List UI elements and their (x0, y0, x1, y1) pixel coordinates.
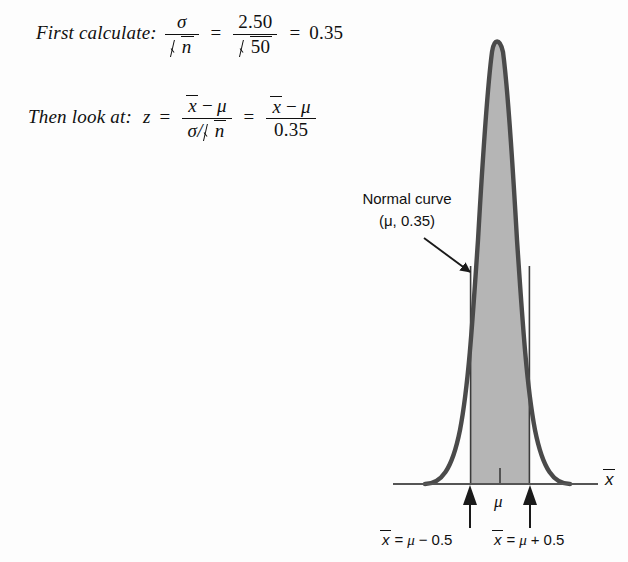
shaded-region (425, 42, 570, 485)
mu-symbol: μ (519, 532, 527, 548)
annotation-line-1: Normal curve (343, 188, 471, 210)
mu-symbol: μ (407, 532, 415, 548)
normal-curve-annotation: Normal curve (μ, 0.35) (343, 188, 471, 232)
mu-axis-label: μ (494, 492, 503, 512)
equals-sign: = (503, 531, 520, 548)
normal-curve-figure (0, 0, 628, 562)
x-bar: x (381, 531, 391, 548)
equals-sign: = (391, 531, 408, 548)
minus-sign: − (415, 531, 432, 548)
figure-page: First calculate: σ n = 2.50 50 = 0.35 Th… (0, 0, 628, 562)
annotation-line-2: (μ, 0.35) (343, 210, 471, 232)
right-bound-label: x=μ+0.5 (493, 531, 564, 549)
left-bound-value: 0.5 (432, 531, 453, 548)
plus-sign: + (527, 531, 544, 548)
right-bound-value: 0.5 (544, 531, 565, 548)
x-bar: x (493, 531, 503, 548)
x-axis-label: x (604, 470, 615, 490)
left-bound-pointer (463, 485, 477, 528)
left-bound-label: x=μ−0.5 (381, 531, 452, 549)
right-bound-pointer (523, 485, 537, 528)
annotation-arrow (424, 238, 470, 272)
